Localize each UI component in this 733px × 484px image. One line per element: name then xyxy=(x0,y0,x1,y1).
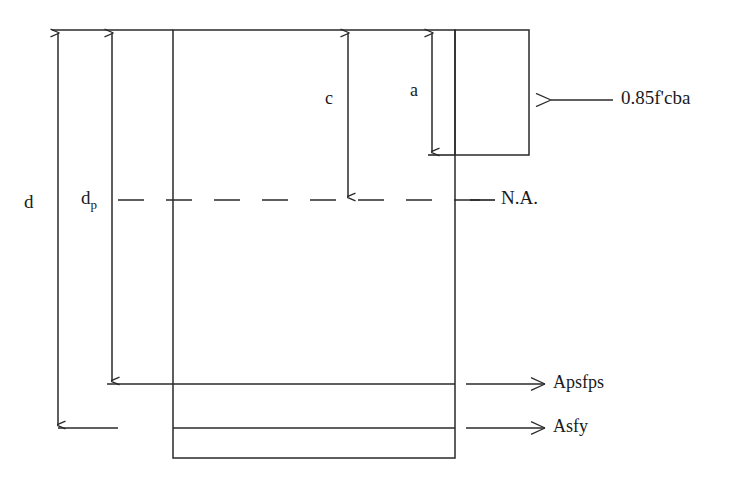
steel-force-label: Asfy xyxy=(553,417,588,435)
dimension-label-dp: dp xyxy=(81,188,97,211)
prestress-force-label: Apsfps xyxy=(553,373,604,391)
dimension-label-dp-subscript: p xyxy=(91,197,98,212)
neutral-axis-label: N.A. xyxy=(501,188,538,207)
dimension-label-c: c xyxy=(325,89,333,107)
dimension-label-dp-base: d xyxy=(81,187,91,208)
dimension-label-a: a xyxy=(410,81,418,99)
diagram-svg xyxy=(0,0,733,484)
dimension-line-d xyxy=(58,33,118,428)
dimension-line-a xyxy=(428,33,455,155)
stress-block-rect xyxy=(455,30,529,155)
diagram-canvas: d dp c a N.A. 0.85f'cba Apsfps Asfy xyxy=(0,0,733,484)
compression-force-label: 0.85f'cba xyxy=(621,88,690,107)
dimension-label-d: d xyxy=(24,192,34,211)
dimension-line-dp xyxy=(107,33,173,384)
